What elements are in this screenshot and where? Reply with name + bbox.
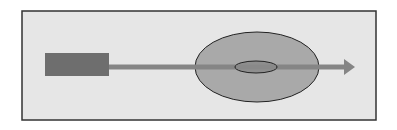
source-block: [45, 53, 109, 76]
diagram-canvas: [0, 0, 397, 130]
inner-ellipse: [235, 61, 277, 73]
